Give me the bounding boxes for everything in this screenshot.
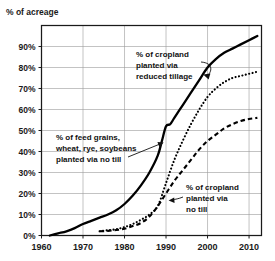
y-tick-label-20: 20% (18, 189, 35, 199)
x-axis-tick-labels: 196019701980199020002010 (31, 242, 259, 252)
acreage-line-chart: % of acreage 0%10%20%30%40%50%60%70%80%9… (0, 0, 275, 261)
x-tick-label-1960: 1960 (31, 242, 51, 252)
annotation-cropland-no-till-line3: no till (186, 205, 207, 214)
annotation-reduced-tillage-line1: % of cropland (136, 50, 189, 59)
annotation-reduced-tillage: % of cropland planted via reduced tillag… (136, 50, 193, 81)
y-tick-label-10: 10% (18, 210, 35, 220)
annotation-cropland-no-till: % of cropland planted via no till (186, 183, 239, 214)
x-tick-label-2000: 2000 (198, 242, 218, 252)
annotation-feed-grains-line3: planted via no till (56, 155, 121, 164)
y-tick-label-0: 0% (23, 231, 36, 241)
annotation-cropland-no-till-line2: planted via (186, 194, 228, 203)
y-axis-tick-labels: 0%10%20%30%40%50%60%70%80%90% (18, 42, 35, 241)
leader-arrow-cropland-no-till (169, 198, 175, 203)
annotation-feed-grains-line2: wheat, rye, soybeans (55, 144, 137, 153)
x-tick-label-1970: 1970 (73, 242, 93, 252)
chart-root: % of acreage 0%10%20%30%40%50%60%70%80%9… (0, 0, 275, 261)
x-tick-label-1980: 1980 (115, 242, 135, 252)
annotation-feed-grains-line1: % of feed grains, (56, 133, 120, 142)
y-tick-label-40: 40% (18, 147, 35, 157)
x-tick-label-2010: 2010 (239, 242, 259, 252)
leader-arrow-reduced-tillage (203, 73, 210, 79)
y-tick-label-60: 60% (18, 105, 35, 115)
y-tick-label-70: 70% (18, 84, 35, 94)
y-tick-label-50: 50% (18, 126, 35, 136)
annotation-reduced-tillage-line2: planted via (136, 61, 178, 70)
y-tick-label-90: 90% (18, 42, 35, 52)
chart-axis-title: % of acreage (6, 7, 59, 17)
annotation-reduced-tillage-line3: reduced tillage (136, 72, 193, 81)
y-tick-label-30: 30% (18, 168, 35, 178)
x-tick-label-1990: 1990 (156, 242, 176, 252)
y-tick-label-80: 80% (18, 63, 35, 73)
annotation-labels: % of cropland planted via reduced tillag… (55, 50, 239, 214)
annotation-cropland-no-till-line1: % of cropland (186, 183, 239, 192)
